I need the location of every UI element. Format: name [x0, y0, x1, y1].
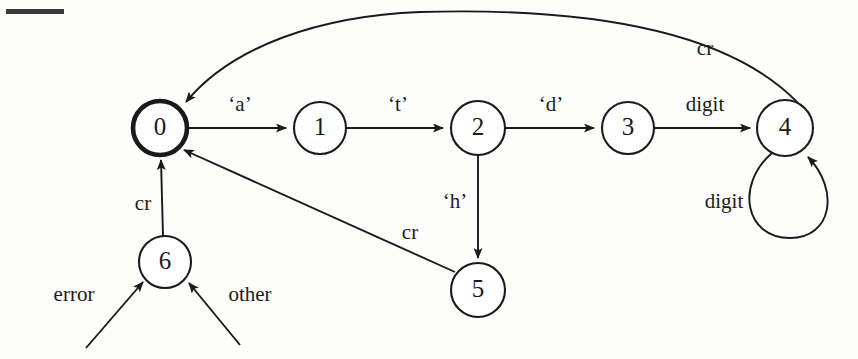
state-label-1: 1 [314, 113, 327, 140]
edge-label-4-self-loop: digit [705, 189, 744, 213]
edge-label-other-input: other [228, 282, 271, 306]
edge-label-0-to-1: ‘a’ [228, 92, 251, 116]
scan-artifact-bar [6, 9, 64, 14]
state-node-0[interactable]: 0 [133, 101, 187, 155]
fsm-diagram: 0 1 2 3 4 5 6 ‘a’ ‘t’ ‘d’ [0, 0, 858, 359]
state-label-2: 2 [472, 113, 485, 140]
state-node-2[interactable]: 2 [451, 101, 505, 155]
state-label-4: 4 [779, 113, 792, 140]
edge-label-error-input: error [54, 282, 95, 306]
state-node-1[interactable]: 1 [294, 102, 346, 154]
state-label-3: 3 [622, 113, 635, 140]
edge-6-to-0 [161, 160, 163, 236]
edge-error-input-to-6 [86, 282, 143, 348]
edge-label-2-to-5: ‘h’ [443, 189, 468, 213]
state-label-6: 6 [159, 247, 172, 274]
edge-label-1-to-2: ‘t’ [388, 92, 408, 116]
edge-label-4-to-0: cr [697, 36, 713, 60]
state-node-3[interactable]: 3 [602, 102, 654, 154]
state-node-6[interactable]: 6 [139, 236, 191, 288]
state-label-5: 5 [472, 275, 485, 302]
edge-label-6-to-0: cr [135, 191, 151, 215]
state-node-4[interactable]: 4 [757, 100, 813, 156]
state-node-5[interactable]: 5 [451, 263, 505, 317]
fsm-canvas: 0 1 2 3 4 5 6 ‘a’ ‘t’ ‘d’ [0, 0, 858, 359]
edge-label-5-to-0: cr [402, 220, 418, 244]
edge-label-2-to-3: ‘d’ [539, 92, 564, 116]
edge-5-to-0 [184, 150, 455, 272]
state-label-0: 0 [154, 113, 167, 140]
edge-4-self-loop [749, 153, 827, 238]
edge-label-3-to-4: digit [686, 92, 725, 116]
